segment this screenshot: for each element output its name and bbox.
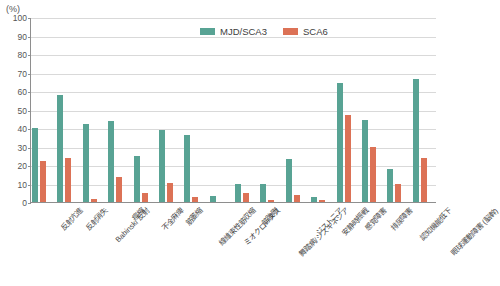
- bar: [184, 135, 190, 202]
- bar: [65, 158, 71, 202]
- y-axis-tick-50: 50: [18, 106, 27, 116]
- bar-group: [82, 18, 107, 202]
- bar: [243, 193, 249, 202]
- y-axis-tick-90: 90: [18, 32, 27, 42]
- bar: [116, 177, 122, 202]
- y-axis-tick-60: 60: [18, 87, 27, 97]
- bar-group: [310, 18, 335, 202]
- bar-group: [56, 18, 81, 202]
- x-axis-label: 眼球運動障害 (脳幹): [448, 205, 500, 257]
- bar: [362, 120, 368, 202]
- bar-group: [158, 18, 183, 202]
- x-axis-label: 排尿障害: [387, 205, 415, 233]
- y-axis-tick-20: 20: [18, 161, 27, 171]
- x-axis-label: 反射消失: [82, 205, 110, 233]
- bar: [268, 200, 274, 202]
- plot-area: 0102030405060708090100: [30, 18, 436, 203]
- y-axis-tick-30: 30: [18, 143, 27, 153]
- bar: [91, 199, 97, 202]
- bar-group: [259, 18, 284, 202]
- bar: [337, 83, 343, 202]
- bar: [142, 193, 148, 202]
- bar: [32, 128, 38, 202]
- bar: [192, 197, 198, 202]
- bar-group: [183, 18, 208, 202]
- bar: [370, 147, 376, 203]
- bar: [235, 184, 241, 203]
- bar-group: [209, 18, 234, 202]
- y-axis-tick-0: 0: [22, 198, 27, 208]
- bar: [413, 79, 419, 202]
- bar: [159, 130, 165, 202]
- bar: [40, 161, 46, 202]
- y-axis-tick-80: 80: [18, 50, 27, 60]
- x-axis-labels: 反射亢進反射消失Babinski 反射痙縮不全麻痺筋萎縮線維束性筋収縮ミオクロー…: [30, 205, 436, 285]
- bar: [210, 196, 216, 202]
- bar-group: [107, 18, 132, 202]
- bar: [421, 158, 427, 202]
- x-axis-label: 認知機能低下: [416, 205, 453, 242]
- bar: [345, 115, 351, 202]
- bar-group: [234, 18, 259, 202]
- x-axis-label: 反射亢進: [57, 205, 85, 233]
- bar: [286, 159, 292, 202]
- bar-group: [31, 18, 56, 202]
- bar: [395, 184, 401, 202]
- bar-group: [361, 18, 386, 202]
- y-axis-tick-40: 40: [18, 124, 27, 134]
- bar: [260, 184, 266, 202]
- bar-group: [336, 18, 361, 202]
- y-axis-tick-70: 70: [18, 69, 27, 79]
- bar-group: [386, 18, 411, 202]
- y-axis-tick-10: 10: [18, 180, 27, 190]
- bar: [311, 197, 317, 202]
- bar-group: [285, 18, 310, 202]
- bars-layer: [31, 18, 436, 202]
- x-axis-label: 筋萎縮: [182, 205, 205, 228]
- gridline-0: [31, 203, 436, 204]
- y-axis-tick-mark-0: [28, 203, 31, 204]
- bar-group: [133, 18, 158, 202]
- y-axis-tick-100: 100: [13, 13, 27, 23]
- bar: [167, 183, 173, 202]
- bar: [319, 200, 325, 202]
- bar: [294, 195, 300, 202]
- bar: [134, 156, 140, 202]
- bar-group: [412, 18, 437, 202]
- bar: [57, 95, 63, 202]
- bar: [108, 121, 114, 202]
- bar: [83, 124, 89, 202]
- bar: [387, 169, 393, 202]
